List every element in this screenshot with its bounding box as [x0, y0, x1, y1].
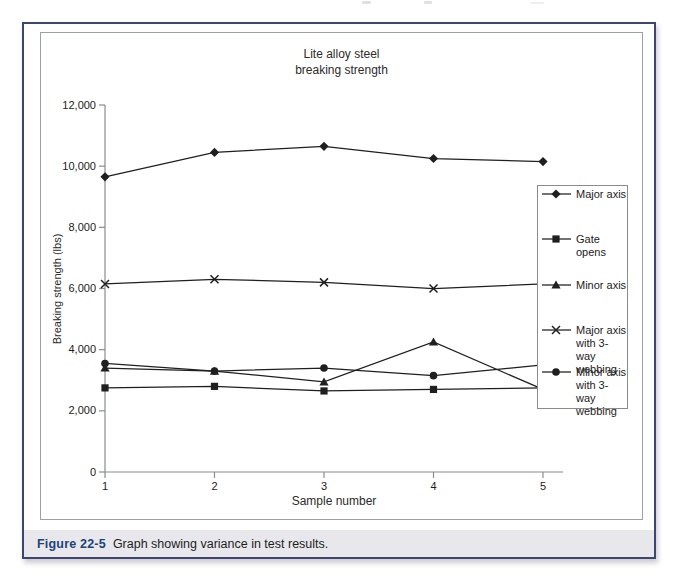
legend-entry-triangle: Minor axis [542, 278, 626, 292]
svg-text:4: 4 [430, 480, 436, 492]
figure-caption: Figure 22-5 Graph showing variance in te… [24, 530, 654, 557]
svg-text:3: 3 [321, 480, 327, 492]
x-axis-label: Sample number [41, 494, 627, 508]
figure-caption-label: Figure 22-5 [37, 537, 106, 551]
figure-frame: Lite alloy steel breaking strength 02,00… [22, 22, 656, 559]
x-marker-icon [542, 323, 572, 337]
diamond-marker-icon [542, 187, 572, 201]
chart-panel: Lite alloy steel breaking strength 02,00… [40, 32, 643, 520]
svg-text:4,000: 4,000 [68, 343, 96, 355]
legend-entry-circle: Minor axiswith 3-waywebbing [542, 365, 627, 418]
svg-text:8,000: 8,000 [68, 221, 96, 233]
y-axis-label: Breaking strength (lbs) [51, 234, 63, 345]
legend-entry-label: Major axis [576, 187, 626, 201]
svg-text:0: 0 [90, 466, 96, 478]
legend-entry-diamond: Major axis [542, 187, 626, 201]
svg-text:1: 1 [102, 480, 108, 492]
legend-entry-label: Minor axis [576, 278, 626, 292]
svg-text:5: 5 [540, 480, 546, 492]
svg-text:10,000: 10,000 [62, 160, 96, 172]
figure-caption-text: Graph showing variance in test results. [113, 537, 328, 551]
square-marker-icon [542, 232, 572, 246]
legend-entry-label: Gate opens [576, 232, 627, 259]
circle-marker-icon [542, 365, 572, 379]
svg-text:12,000: 12,000 [62, 99, 96, 111]
triangle-marker-icon [542, 278, 572, 292]
svg-text:2: 2 [211, 480, 217, 492]
svg-text:2,000: 2,000 [68, 404, 96, 416]
svg-text:6,000: 6,000 [68, 282, 96, 294]
legend-entry-label: Minor axiswith 3-waywebbing [576, 365, 627, 418]
legend-entry-square: Gate opens [542, 232, 627, 259]
legend-box: Major axisGate opensMinor axisMajor axis… [537, 185, 628, 409]
